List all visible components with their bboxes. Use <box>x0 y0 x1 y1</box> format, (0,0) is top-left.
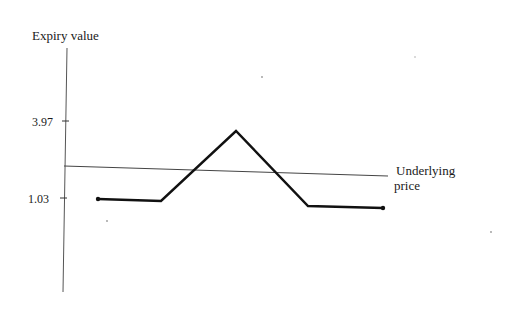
tick-label-high: 3.97 <box>32 115 53 129</box>
scan-speck <box>261 76 263 78</box>
y-axis <box>63 48 67 292</box>
scan-speck <box>106 220 108 222</box>
scan-speck <box>414 56 416 58</box>
payoff-end-point <box>381 206 385 210</box>
scan-speck <box>490 231 492 233</box>
underlying-label-line1: Underlying <box>396 163 456 178</box>
tick-label-low: 1.03 <box>28 192 49 206</box>
underlying-price-line <box>64 166 388 176</box>
payoff-chart: Expiry value 3.97 1.03 Underlying price <box>0 0 513 312</box>
y-axis-label: Expiry value <box>32 28 99 43</box>
underlying-label-line2: price <box>394 178 420 193</box>
payoff-start-point <box>96 197 100 201</box>
payoff-line <box>98 131 383 208</box>
